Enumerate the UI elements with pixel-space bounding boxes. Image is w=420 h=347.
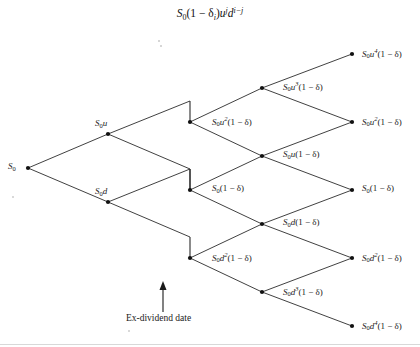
node-label: S0u xyxy=(95,119,107,129)
tree-node-dot xyxy=(350,324,354,328)
node-label: S0u4(1 − δ) xyxy=(362,48,402,60)
node-label: S0u2(1 − δ) xyxy=(362,116,402,128)
node-label: S0u2(1 − δ) xyxy=(212,116,252,128)
tree-node-dot xyxy=(260,86,264,90)
node-label: S0d xyxy=(95,187,107,197)
node-label: S0 xyxy=(8,162,16,172)
node-label: S0(1 − δ) xyxy=(362,184,394,194)
node-label: S0(1 − δ) xyxy=(212,184,244,194)
scan-speck xyxy=(128,330,130,332)
tree-node-dot xyxy=(350,52,354,56)
scan-speck xyxy=(158,40,160,42)
node-label: S0d3(1 − δ) xyxy=(283,286,323,298)
node-label: S0d2(1 − δ) xyxy=(212,252,252,264)
tree-edge xyxy=(262,224,352,258)
tree-edge xyxy=(108,134,190,169)
node-label: S0u3(1 − δ) xyxy=(283,81,323,93)
tree-node-dot xyxy=(106,132,110,136)
tree-node-dot xyxy=(350,120,354,124)
binomial-tree-figure: S0(1 − δi)ujdi−j S0S0uS0dS0u2(1 − δ)S0(1… xyxy=(0,0,420,347)
tree-node-dot xyxy=(260,154,264,158)
tree-edge xyxy=(28,134,108,168)
tree-edge xyxy=(108,202,190,237)
tree-node-dot xyxy=(188,256,192,260)
tree-edge xyxy=(108,101,190,134)
node-label: S0d2(1 − δ) xyxy=(362,252,402,264)
scan-speck xyxy=(160,45,162,47)
tree-node-dot xyxy=(188,188,192,192)
node-label: S0u(1 − δ) xyxy=(283,150,320,160)
tree-node-dot xyxy=(260,222,264,226)
tree-node-dot xyxy=(106,200,110,204)
tree-edge xyxy=(262,156,352,190)
tree-node-dot xyxy=(260,290,264,294)
tree-edge xyxy=(190,190,262,224)
node-label: S0d(1 − δ) xyxy=(283,218,320,228)
scan-speck xyxy=(12,196,14,198)
ex-dividend-date-label: Ex-dividend date xyxy=(126,313,191,323)
tree-node-dot xyxy=(350,188,354,192)
tree-canvas xyxy=(0,0,420,347)
tree-edge xyxy=(108,169,190,202)
ex-dividend-arrow xyxy=(160,281,167,312)
tree-node-dot xyxy=(350,256,354,260)
node-label: S0d4(1 − δ) xyxy=(362,320,402,332)
caption-divider xyxy=(0,344,420,345)
tree-edge xyxy=(262,88,352,122)
tree-node-dot xyxy=(26,166,30,170)
tree-node-dot xyxy=(188,120,192,124)
